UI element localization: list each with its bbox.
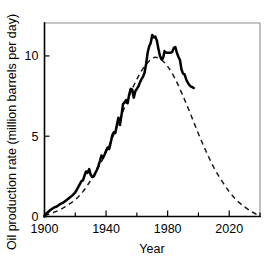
chart-canvas: 0510 1900194019802020 Year Oil productio… [0, 0, 273, 266]
x-axis-title: Year [139, 242, 164, 256]
x-axis-tick-labels: 1900194019802020 [31, 222, 244, 236]
x-ticklabel-1980: 1980 [154, 222, 182, 236]
y-axis-tick-labels: 0510 [25, 49, 39, 224]
oil-production-chart-figure: 0510 1900194019802020 Year Oil productio… [0, 0, 273, 266]
series-actual-production [45, 35, 194, 216]
y-ticklabel-10: 10 [25, 49, 39, 63]
y-axis-title: Oil production rate (million barrels per… [5, 14, 19, 250]
x-ticklabel-1940: 1940 [92, 222, 120, 236]
y-ticklabel-5: 5 [32, 130, 39, 144]
x-ticklabel-2020: 2020 [215, 222, 243, 236]
data-series-group [45, 35, 261, 216]
x-ticklabel-1900: 1900 [31, 222, 59, 236]
series-hubbert-curve-fit [45, 57, 261, 216]
